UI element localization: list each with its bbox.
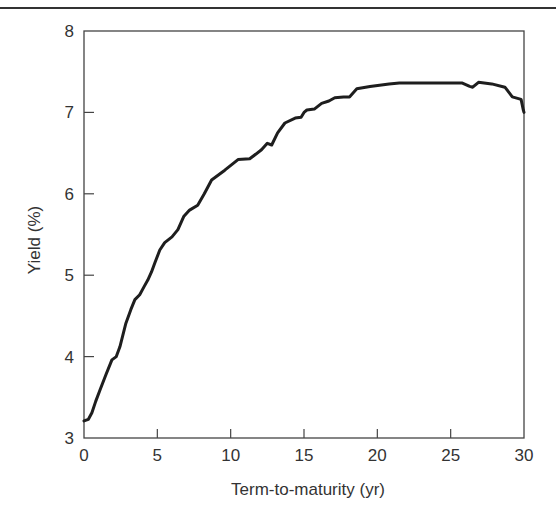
y-tick-label: 8 [65, 22, 74, 41]
y-tick-label: 4 [65, 348, 74, 367]
x-axis-title: Term-to-maturity (yr) [231, 480, 385, 499]
yield-curve-line [84, 82, 524, 421]
y-tick-label: 6 [65, 185, 74, 204]
x-tick-label: 5 [153, 446, 162, 465]
x-tick-label: 10 [221, 446, 240, 465]
y-axis-title: Yield (%) [25, 206, 44, 274]
x-tick-label: 20 [368, 446, 387, 465]
y-tick-label: 3 [65, 429, 74, 448]
x-tick-label: 15 [295, 446, 314, 465]
x-tick-label: 0 [79, 446, 88, 465]
x-tick-label: 30 [515, 446, 534, 465]
y-tick-label: 7 [65, 103, 74, 122]
y-axis-ticks: 345678 [65, 22, 94, 448]
plot-frame [84, 31, 524, 438]
x-tick-label: 25 [441, 446, 460, 465]
yield-curve-chart: 051015202530 345678 Term-to-maturity (yr… [0, 0, 556, 527]
x-axis-ticks: 051015202530 [79, 429, 533, 465]
y-tick-label: 5 [65, 266, 74, 285]
